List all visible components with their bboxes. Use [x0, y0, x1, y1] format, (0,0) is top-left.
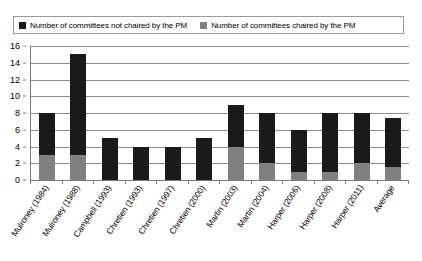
bar-group: [165, 147, 181, 181]
x-axis-label: Martin (2003): [205, 184, 239, 229]
legend-swatch-not-chaired: [19, 22, 26, 29]
bar-segment-chaired: [259, 163, 275, 180]
y-tick-label: 6: [15, 125, 20, 134]
x-axis-label: Harper (2011): [330, 184, 365, 231]
bar-segment-chaired: [228, 147, 244, 181]
bar-segment-chaired: [385, 167, 401, 180]
bar-segment-chaired: [322, 172, 338, 180]
y-tick-mark: [23, 113, 26, 114]
y-tick-mark: [23, 163, 26, 164]
bar-segment-not-chaired: [196, 138, 212, 180]
y-tick-label: 10: [10, 92, 20, 101]
bar-group: [322, 113, 338, 180]
bar-group: [354, 113, 370, 180]
y-tick-label: 8: [15, 109, 20, 118]
bar-group: [291, 130, 307, 180]
x-axis-labels: Mulroney (1984)Mulroney (1988)Campbell (…: [0, 184, 422, 261]
x-axis-label: Martin (2004): [236, 184, 270, 229]
bar-group: [70, 54, 86, 180]
y-tick-label: 4: [15, 142, 20, 151]
bar-segment-not-chaired: [322, 113, 338, 172]
legend-entry-chaired: Number of committees chaired by the PM: [200, 17, 355, 33]
bar-segment-not-chaired: [102, 138, 118, 180]
y-tick-mark: [23, 129, 26, 130]
bar-segment-not-chaired: [291, 130, 307, 172]
legend-swatch-chaired: [200, 22, 207, 29]
legend-label-not-chaired: Number of committees not chaired by the …: [30, 21, 187, 30]
bar-segment-not-chaired: [354, 113, 370, 163]
y-axis: 0246810121416: [0, 46, 26, 180]
legend-label-chaired: Number of committees chaired by the PM: [211, 21, 355, 30]
plot-area: [30, 46, 409, 181]
bar-segment-chaired: [291, 172, 307, 180]
y-tick-label: 2: [15, 159, 20, 168]
y-tick-mark: [23, 96, 26, 97]
y-tick-mark: [23, 146, 26, 147]
y-tick-mark: [23, 180, 26, 181]
bar-segment-not-chaired: [39, 113, 55, 155]
y-tick-label: 14: [10, 58, 20, 67]
y-tick-label: 16: [10, 42, 20, 51]
bar-group: [228, 105, 244, 180]
bar-segment-not-chaired: [228, 105, 244, 147]
bar-group: [385, 118, 401, 180]
bar-group: [196, 138, 212, 180]
bar-segment-not-chaired: [165, 147, 181, 181]
bar-segment-not-chaired: [70, 54, 86, 155]
legend-entry-not-chaired: Number of committees not chaired by the …: [19, 17, 187, 33]
chart-legend: Number of committees not chaired by the …: [13, 16, 404, 34]
bar-segment-not-chaired: [385, 118, 401, 167]
y-tick-mark: [23, 46, 26, 47]
bars-layer: [31, 46, 409, 180]
y-tick-mark: [23, 79, 26, 80]
x-axis-label: Average: [372, 184, 396, 214]
x-axis-label: Chretien (2000): [168, 184, 207, 236]
bar-segment-not-chaired: [133, 147, 149, 181]
bar-segment-chaired: [39, 155, 55, 180]
bar-group: [39, 113, 55, 180]
bar-segment-not-chaired: [259, 113, 275, 163]
y-tick-mark: [23, 62, 26, 63]
bar-chart: Number of committees not chaired by the …: [0, 0, 422, 261]
bar-group: [102, 138, 118, 180]
bar-segment-chaired: [70, 155, 86, 180]
bar-group: [133, 147, 149, 181]
bar-group: [259, 113, 275, 180]
bar-segment-chaired: [354, 163, 370, 180]
y-tick-label: 12: [10, 75, 20, 84]
